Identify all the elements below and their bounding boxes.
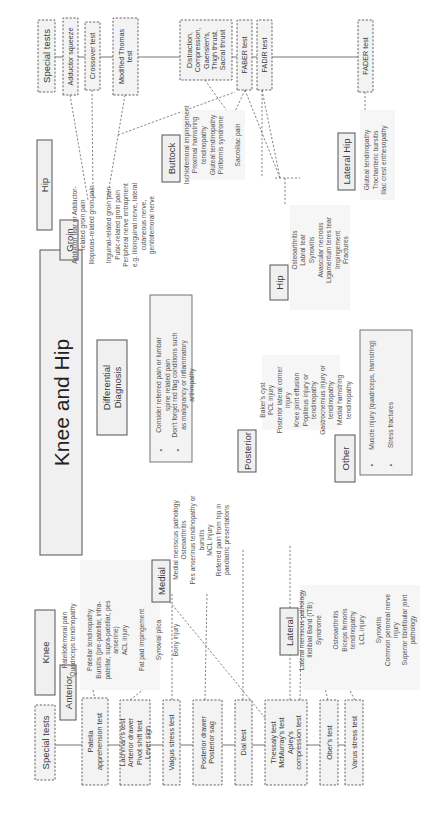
lateral-item: Syndrome <box>315 615 323 645</box>
hip-joint-item: Synovitis <box>308 236 316 263</box>
medial-item: bursitis <box>198 529 205 551</box>
posterior-item: Posterior lateral corner <box>276 366 283 434</box>
groin-item: Adductor tear or Adductor- <box>71 186 78 263</box>
anterior-label: Anterior <box>63 676 74 709</box>
hip-label: Hip <box>39 178 50 192</box>
buttock-item: Piriformis syndrome <box>217 116 225 175</box>
lateral-item: injury <box>392 621 400 637</box>
differential-diagnosis-label: Differential <box>101 365 112 410</box>
anterior-item: Quadriceps tendinopathy <box>69 603 77 677</box>
differential-note: arthropathy <box>188 368 196 402</box>
posterior-item: Medial hamstring <box>336 375 344 426</box>
other-item: Muscle injury (quadriceps, hamstring) <box>368 340 376 450</box>
anterior-item: patellar, supra-patellar, pes <box>104 600 112 680</box>
knee-test-label: compression test <box>294 715 303 769</box>
differential-note: Consider referred pain or lumbar <box>155 337 163 433</box>
medial-item: MCL injury <box>206 524 214 556</box>
buttock-item: Proximal hamstring <box>191 116 199 173</box>
lateral-item: LCL injury <box>358 615 366 645</box>
knee-test-label: Valgus stress test <box>167 714 176 770</box>
knee-special-tests-label: Special tests <box>40 715 51 769</box>
buttock-item: Gluteal tendinopathy <box>209 114 217 175</box>
hip-joint-label: Hip <box>274 275 285 289</box>
lateral-item: pathology <box>409 615 417 644</box>
knee-test-label: Lever sign <box>143 726 152 759</box>
knee-hip-diagram: Knee and HipDifferentialDiagnosis••Consi… <box>0 0 444 817</box>
anterior-item: Bursitis (pre-patellar, infra- <box>95 601 103 678</box>
medial-item: Referred pain from hip in <box>215 503 223 576</box>
lateral-item: Synovitis <box>375 616 383 643</box>
hip-test-label: test <box>125 51 134 63</box>
posterior-label: Posterior <box>242 432 253 470</box>
groin-item: cutaneous nerve, <box>140 200 147 251</box>
posterior-item: tendinopathy <box>345 380 353 418</box>
anterior-item: ACL injury <box>121 624 129 655</box>
posterior-item: Popliteus injury or <box>302 373 310 426</box>
lateral-hip-item: Trochanteric bursitis <box>372 130 379 190</box>
groin-item: Inguinal-related groin pain <box>105 187 113 264</box>
buttock-label: Buttock <box>166 142 177 174</box>
hip-joint-item: Fractures <box>342 235 349 264</box>
hip-joint-item: Impingement <box>334 231 342 269</box>
groin-item: Peripheral nerve entrapment <box>122 183 130 267</box>
dashed-connector <box>92 90 93 200</box>
dashed-connector <box>245 90 280 178</box>
anterior-item: Fat pad impingement <box>138 609 146 671</box>
anterior-item: Synovial plica <box>155 620 163 661</box>
lateral-hip-item: Gluteal tendinopathy <box>363 129 371 190</box>
anterior-item: Patellofemoral pain <box>61 611 69 668</box>
medial-label: Medial <box>156 567 167 595</box>
dashed-connector <box>262 90 280 178</box>
groin-item: related groin pain <box>79 199 87 250</box>
hip-test-label: Crossover test <box>88 33 97 79</box>
hip-joint-item: Labral tear <box>299 233 306 265</box>
medial-item: paediatric presentations <box>223 504 231 575</box>
knee-test-label: Posterior sag <box>207 721 216 763</box>
nodes: Knee and HipDifferentialDiagnosis••Consi… <box>35 18 420 785</box>
lateral-item: Biceps femoris <box>341 608 349 652</box>
buttock-item: Sacroiliac pain <box>234 123 242 166</box>
lateral-item: Common peroneal nerve <box>384 593 392 666</box>
posterior-item: injury <box>284 391 292 407</box>
lateral-item: Iliotibial Band (ITB) <box>306 602 314 658</box>
buttock-item: tendinopathy <box>200 125 208 163</box>
hip-joint-item: Ligamentum teres tear <box>325 216 333 283</box>
buttock-item: Ischiofemoral impingement <box>183 105 191 184</box>
knee-test-label: apprehension test <box>95 713 104 770</box>
hip-joint-item: Osteoarthritis <box>291 230 298 270</box>
differential-note: as malignancy or inflammatory <box>180 340 188 430</box>
posterior-item: PCL injury <box>267 384 275 415</box>
lateral-label: Lateral <box>284 617 295 646</box>
hip-test-label: FADIR test <box>260 38 269 73</box>
posterior-item: tendinopathy <box>310 380 318 418</box>
groin-item: genitofemoral nerve <box>148 196 156 255</box>
knee-test-label: Ober's test <box>325 725 334 760</box>
lateral-hip-label: Lateral Hip <box>341 139 352 185</box>
groin-item: Iliopsoas-related groin pain <box>88 185 96 265</box>
lateral-item: tendinopathy <box>349 610 357 648</box>
diagram-title: Knee and Hip <box>50 339 73 466</box>
knee-test-label: Varus stress test <box>350 716 359 769</box>
differential-note: Don't forget red flag conditions such <box>171 332 179 437</box>
anterior-item: Patellar tendinopathy <box>86 608 94 671</box>
knee-test-label: Dial test <box>239 730 248 756</box>
lateral-item: Lateral meniscus pathology <box>298 589 306 670</box>
medial-item: Pes anserinus tendinopathy or <box>189 495 197 585</box>
dashed-connector <box>70 95 88 200</box>
hip-test-label: FADER test <box>361 37 370 75</box>
hip-test-label: Adductor squeeze <box>66 28 75 86</box>
lateral-item: Osteoarthritis <box>332 610 339 650</box>
lateral-item: Superior tibiofibular joint <box>401 594 409 665</box>
differential-diagnosis-label: Diagnosis <box>112 366 123 408</box>
hip-joint-item: Avascular necrosis <box>317 222 324 278</box>
other-item: Stress fractures <box>387 401 394 448</box>
groin-item: e.g. Ilioinguinal nerve, lateral <box>131 183 139 267</box>
medial-item: Osteoarthritis <box>180 520 187 560</box>
diagram-canvas: Knee and HipDifferentialDiagnosis••Consi… <box>0 0 444 817</box>
hip-test-label: FABER test <box>240 36 249 73</box>
medial-item: Medial meniscus pathology <box>172 500 180 580</box>
knee-label: Knee <box>40 641 51 663</box>
posterior-item: tendinopathy <box>327 380 335 418</box>
posterior-item: Knee joint effusion <box>293 373 301 427</box>
hip-special-tests-label: Special tests <box>41 29 52 83</box>
